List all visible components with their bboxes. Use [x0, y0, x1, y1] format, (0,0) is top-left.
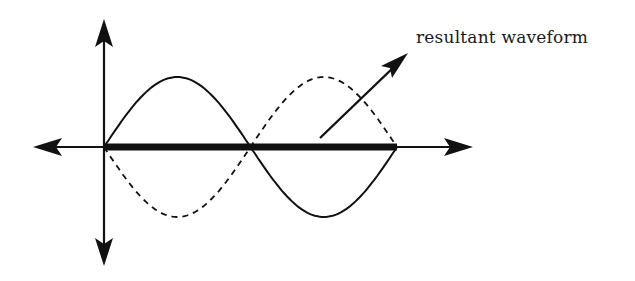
- resultant-waveform-label: resultant waveform: [416, 27, 588, 47]
- pointer-arrow: [320, 53, 408, 138]
- vertical-axis: [95, 19, 113, 266]
